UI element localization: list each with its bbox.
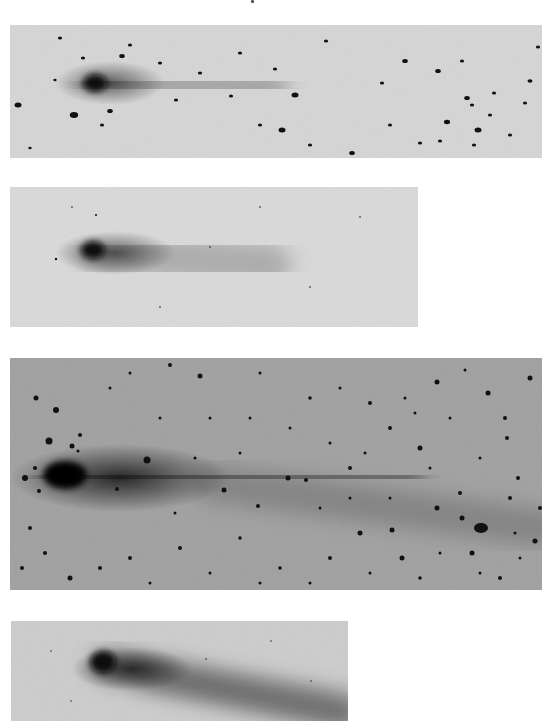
star [115,487,119,491]
star [128,556,132,560]
star [400,556,405,561]
star [488,114,492,117]
star [119,54,125,58]
star [308,144,312,147]
star [514,532,517,535]
star [70,444,75,449]
star [449,417,452,420]
star [78,433,82,437]
star [418,446,423,451]
star [414,412,417,415]
comet-coma [10,444,230,512]
star [464,369,467,372]
star [486,391,491,396]
star [503,416,507,420]
star [348,466,352,470]
star [58,37,62,40]
star [33,466,37,470]
star [159,417,162,420]
star [435,69,441,73]
star [359,216,361,218]
star [256,504,260,508]
star [289,427,292,430]
star [536,46,540,49]
comet-nucleus [90,651,116,673]
star [516,476,520,480]
star [259,582,262,585]
star [349,497,352,500]
star [479,457,482,460]
comet-nucleus [81,241,105,259]
star [533,539,538,544]
star [270,640,271,641]
comet-photo-3 [10,358,542,590]
star [238,536,242,540]
star [279,128,286,133]
star [418,576,422,580]
star [368,401,372,405]
star [492,92,496,95]
star [470,551,475,556]
star [168,363,172,367]
star [53,407,59,413]
star [458,491,462,495]
star [259,372,262,375]
star [404,397,407,400]
star [70,700,71,701]
star [358,531,363,536]
star [22,475,28,481]
star [194,457,197,460]
star [389,497,392,500]
star [77,450,80,453]
star [198,72,202,75]
star [109,387,112,390]
star [37,489,41,493]
star [438,140,442,143]
star [435,380,440,385]
star [273,68,277,71]
star [538,506,542,510]
star [71,206,73,208]
star [286,476,291,481]
star [388,426,392,430]
star [174,99,178,102]
star [439,552,442,555]
star [28,147,31,149]
star [70,112,78,118]
page-mark [251,0,254,3]
star [209,246,211,248]
star [308,396,312,400]
star [508,134,512,137]
star [198,374,203,379]
star [319,507,322,510]
star [328,556,332,560]
star [149,582,152,585]
star [470,104,474,107]
star [429,467,432,470]
star [222,488,227,493]
star [460,60,464,63]
comet-nucleus [43,461,87,489]
star [129,372,132,375]
bright-object [474,523,488,533]
star [28,526,32,530]
star [98,566,102,570]
star [258,124,262,127]
star [310,680,311,681]
star [479,572,482,575]
star [402,59,408,63]
star [128,44,132,47]
comet-nucleus [83,74,107,92]
star [34,396,39,401]
star [418,142,422,145]
star [55,258,57,260]
comet-photo-1 [10,25,542,158]
star [95,214,97,216]
star [15,103,22,108]
star [527,79,532,83]
star [475,128,482,133]
star [505,436,509,440]
star [388,124,392,127]
comet-photo-2 [10,187,418,327]
star [20,566,24,570]
